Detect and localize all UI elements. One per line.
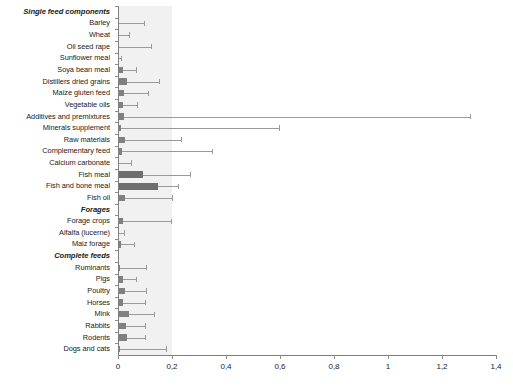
error-bar-line xyxy=(119,35,129,36)
error-bar-line xyxy=(119,47,151,48)
bar xyxy=(118,311,129,317)
y-axis-tick xyxy=(115,285,118,286)
category-label: Maize gluten feed xyxy=(0,88,113,97)
bar xyxy=(118,195,125,201)
y-axis-tick xyxy=(115,227,118,228)
y-axis-tick xyxy=(115,53,118,54)
category-group-label: Forages xyxy=(0,205,113,214)
error-bar-cap xyxy=(148,91,149,96)
category-label: Pigs xyxy=(0,274,113,283)
error-bar-cap xyxy=(129,32,130,37)
y-axis-tick xyxy=(115,64,118,65)
error-bar-cap xyxy=(190,172,191,177)
error-bar-line xyxy=(122,151,212,152)
error-bar-cap xyxy=(151,44,152,49)
y-axis-tick xyxy=(115,320,118,321)
y-axis-tick xyxy=(115,169,118,170)
category-label: Calcium carbonate xyxy=(0,158,113,167)
error-bar-cap xyxy=(171,219,172,224)
error-bar-line xyxy=(120,349,166,350)
y-axis-tick xyxy=(115,29,118,30)
error-bar-line xyxy=(125,140,181,141)
x-axis-tick xyxy=(442,355,443,359)
error-bar-cap xyxy=(154,312,155,317)
error-bar-line xyxy=(143,175,190,176)
error-bar-cap xyxy=(178,184,179,189)
error-bar-line xyxy=(124,93,148,94)
error-bar-cap xyxy=(212,149,213,154)
category-label: Raw materials xyxy=(0,135,113,144)
y-axis-tick xyxy=(115,111,118,112)
x-axis-tick-label: 1,4 xyxy=(490,362,501,371)
y-axis-tick xyxy=(115,6,118,7)
error-bar-cap xyxy=(146,265,147,270)
category-label: Barley xyxy=(0,18,113,27)
x-axis-tick-label: 1,2 xyxy=(436,362,447,371)
y-axis-tick xyxy=(115,297,118,298)
category-label: Distillers dried grains xyxy=(0,77,113,86)
category-label: Dogs and cats xyxy=(0,344,113,353)
x-axis-tick-label: 0,8 xyxy=(328,362,339,371)
error-bar-line xyxy=(120,268,146,269)
error-bar-cap xyxy=(134,242,135,247)
error-bar-cap xyxy=(136,67,137,72)
y-axis-tick xyxy=(115,76,118,77)
error-bar-line xyxy=(127,82,159,83)
category-label: Horses xyxy=(0,298,113,307)
y-axis-tick xyxy=(115,146,118,147)
error-bar-cap xyxy=(172,195,173,200)
error-bar-line xyxy=(158,186,178,187)
error-bar-cap xyxy=(145,335,146,340)
x-axis-tick xyxy=(388,355,389,359)
error-bar-cap xyxy=(159,79,160,84)
plot-area xyxy=(118,6,496,355)
y-axis-tick xyxy=(115,343,118,344)
error-bar-line xyxy=(124,117,470,118)
category-label: Oil seed rape xyxy=(0,42,113,51)
category-label: Alfalfa (lucerne) xyxy=(0,228,113,237)
bar xyxy=(118,183,158,189)
category-label: Ruminants xyxy=(0,263,113,272)
y-axis-tick xyxy=(115,308,118,309)
error-bar-line xyxy=(119,23,143,24)
error-bar-line xyxy=(123,303,146,304)
y-axis-tick xyxy=(115,262,118,263)
x-axis-tick xyxy=(334,355,335,359)
x-axis-tick xyxy=(226,355,227,359)
x-axis-tick-label: 0,4 xyxy=(220,362,231,371)
bar xyxy=(118,323,126,329)
category-label: Sunflower meal xyxy=(0,53,113,62)
error-bar-cap xyxy=(166,346,167,351)
error-bar-line xyxy=(123,70,136,71)
category-label: Forage crops xyxy=(0,216,113,225)
x-axis-tick-label: 0,6 xyxy=(274,362,285,371)
y-axis-tick xyxy=(115,215,118,216)
y-axis-tick xyxy=(115,204,118,205)
x-axis-tick-label: 0,2 xyxy=(166,362,177,371)
y-axis-tick xyxy=(115,239,118,240)
bar xyxy=(118,137,125,143)
y-axis-tick xyxy=(115,192,118,193)
error-bar-line xyxy=(126,326,145,327)
category-group-label: Single feed components xyxy=(0,7,113,16)
y-axis-line xyxy=(118,6,119,356)
horizontal-bar-chart: Single feed componentsBarleyWheatOil see… xyxy=(0,0,513,386)
x-axis-tick xyxy=(172,355,173,359)
y-axis-tick xyxy=(115,134,118,135)
error-bar-line xyxy=(123,221,171,222)
error-bar-cap xyxy=(131,160,132,165)
plot-background xyxy=(118,6,496,355)
x-axis-tick xyxy=(280,355,281,359)
error-bar-line xyxy=(127,338,145,339)
x-axis-tick xyxy=(496,355,497,359)
y-axis-tick xyxy=(115,122,118,123)
error-bar-line xyxy=(121,244,134,245)
category-label: Poultry xyxy=(0,286,113,295)
bar xyxy=(118,334,127,340)
error-bar-cap xyxy=(279,125,280,130)
error-bar-cap xyxy=(470,114,471,119)
category-label: Maiz forage xyxy=(0,239,113,248)
y-axis-tick xyxy=(115,274,118,275)
x-axis-tick-label: 0 xyxy=(116,362,120,371)
category-label: Soya bean meal xyxy=(0,65,113,74)
